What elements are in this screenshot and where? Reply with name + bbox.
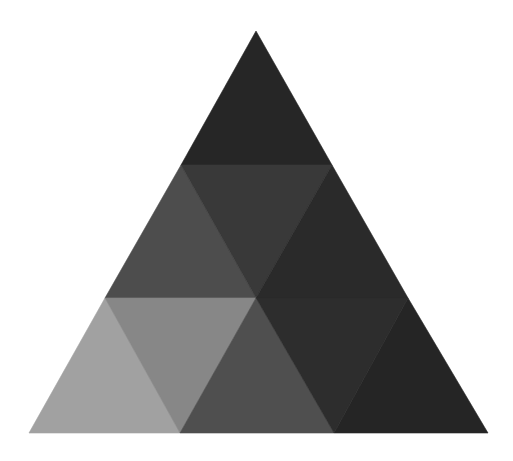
triangle-tiling-graphic: [0, 0, 513, 461]
triangle-diagram: [0, 0, 513, 461]
